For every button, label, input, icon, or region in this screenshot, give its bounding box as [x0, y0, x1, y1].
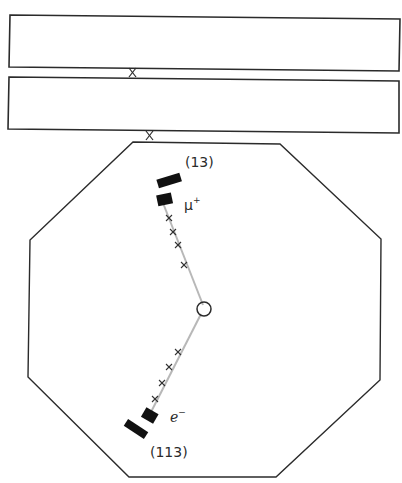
- vertex-circle: [197, 302, 211, 316]
- muon-hit-marks: [166, 215, 187, 268]
- hit-x-icon: [181, 262, 187, 268]
- hit-x-icon: [159, 380, 165, 386]
- upper-chamber: [9, 15, 400, 71]
- electron-inner-block: [141, 407, 159, 424]
- electron-track: [150, 314, 201, 414]
- hit-x-icon: [175, 349, 181, 355]
- electron-label: e−: [170, 407, 186, 425]
- junction-x-mark-lower: [146, 131, 153, 140]
- muon-outer-block: [156, 173, 182, 189]
- junction-x-mark-upper: [129, 68, 136, 77]
- electron-hit-marks: [152, 349, 181, 402]
- electron-outer-block: [124, 419, 148, 439]
- event-display: (13) μ+ e− (113): [0, 0, 402, 483]
- upper-block-label: (13): [185, 154, 214, 170]
- muon-label: μ+: [184, 195, 200, 213]
- hit-x-icon: [166, 364, 172, 370]
- lower-chamber: [8, 77, 399, 133]
- octagonal-detector: [28, 142, 381, 477]
- lower-block-label: (113): [150, 444, 188, 460]
- muon-inner-block: [156, 192, 173, 206]
